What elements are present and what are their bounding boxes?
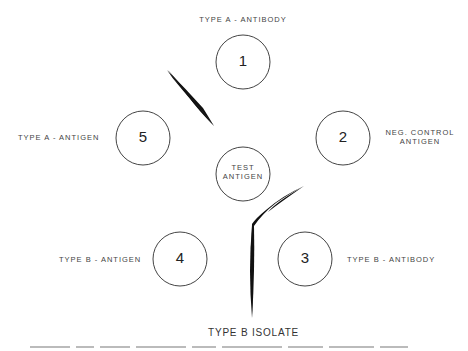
well-1-label: TYPE A - ANTIBODY xyxy=(183,15,303,24)
precipitin-line-type-b-stem xyxy=(250,226,254,318)
well-3-number: 3 xyxy=(295,249,315,267)
well-5-label: TYPE A - ANTIGEN xyxy=(18,133,99,142)
well-1-number: 1 xyxy=(233,52,253,70)
well-3-label: TYPE B - ANTIBODY xyxy=(347,255,435,264)
well-2-number: 2 xyxy=(333,128,353,146)
cropped-caption-fragment xyxy=(30,346,450,351)
precipitin-line-type-b-spur xyxy=(268,186,304,212)
well-2-label-line1: NEG. CONTROL xyxy=(380,128,460,137)
well-2-label-line2: ANTIGEN xyxy=(380,137,460,146)
well-4-number: 4 xyxy=(170,249,190,267)
test-well-label-line2: ANTIGEN xyxy=(213,172,273,181)
precipitin-line-type-a-body xyxy=(168,70,214,126)
diagram-caption: TYPE B ISOLATE xyxy=(208,327,299,338)
test-well-label-line1: TEST xyxy=(213,163,273,172)
well-4-label: TYPE B - ANTIGEN xyxy=(59,255,141,264)
immunodiffusion-diagram: 1 2 3 4 5 TEST ANTIGEN TYPE A - ANTIBODY… xyxy=(0,0,468,351)
well-5-number: 5 xyxy=(133,128,153,146)
